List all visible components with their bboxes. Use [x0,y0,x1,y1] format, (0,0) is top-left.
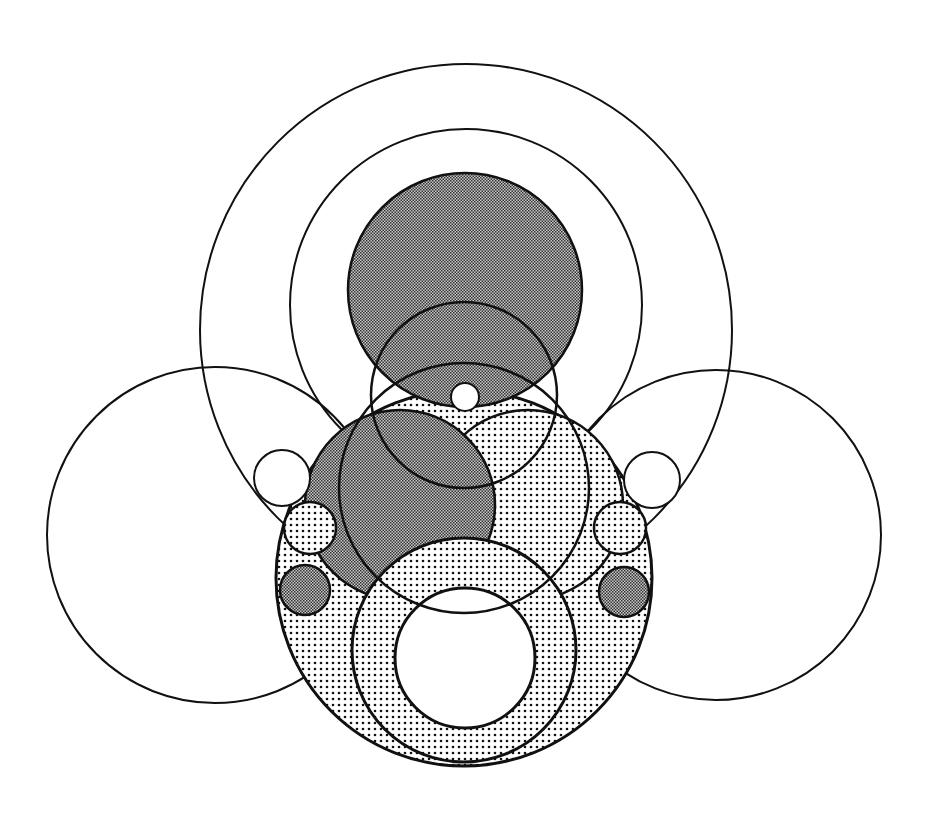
right-small-empty-circle [624,452,680,508]
top-filled-circle [348,173,582,407]
right-small-dotted-circle [594,502,646,554]
circle-diagram [0,0,933,816]
left-small-empty-circle [254,450,310,506]
right-small-dark-circle [599,567,649,617]
left-small-dotted-circle [284,502,336,554]
left-small-dark-circle [280,565,330,615]
top-small-circle [451,383,479,411]
circles-layer [47,64,881,766]
bottom-ring-hole-circle [395,588,535,728]
diagram-svg [0,0,933,816]
